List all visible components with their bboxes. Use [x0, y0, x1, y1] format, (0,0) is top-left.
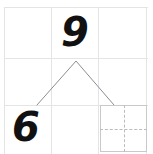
handwritten-digit-nine: 9	[61, 12, 88, 52]
dashed-crosshair-box	[100, 105, 147, 152]
caret-polyline	[37, 61, 114, 105]
dashed-horizontal-line	[100, 129, 147, 130]
handwritten-digit-six: 6	[12, 107, 39, 147]
worksheet-canvas: 9 6	[0, 0, 153, 154]
